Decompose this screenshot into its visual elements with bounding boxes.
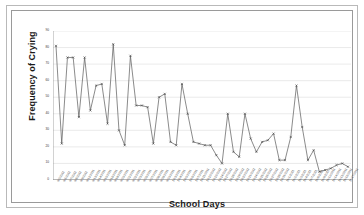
chart-figure: Frequency of Crying 0102030405060708090 … [0,0,364,215]
plot-area [53,31,351,180]
x-axis-title: School Days [52,199,342,209]
line-series-svg [53,31,351,180]
y-tick-label: 70 [45,63,49,66]
y-tick-label: 60 [45,79,49,82]
chart-area-border: Frequency of Crying 0102030405060708090 … [11,10,353,203]
y-tick-label: 90 [45,29,49,32]
data-point-marker [215,154,217,156]
y-tick-label: 50 [45,96,49,99]
crying-frequency-line [56,44,348,171]
y-tick-label: 40 [45,112,49,115]
x-axis-tick-labels: 9/2/20119/6/20119/7/20119/8/20119/9/2011… [53,181,353,199]
y-tick-label: 10 [45,162,49,165]
y-axis-tick-labels: 0102030405060708090 [12,31,52,180]
y-tick-label: 20 [45,145,49,148]
data-point-markers [55,43,349,173]
y-tick-label: 0 [47,178,49,181]
y-tick-label: 80 [45,46,49,49]
gridlines [53,31,351,180]
y-tick-label: 30 [45,129,49,132]
